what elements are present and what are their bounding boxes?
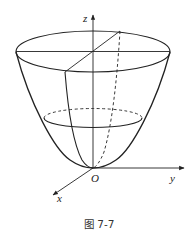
paraboloid-diagram: z y x O 图 7-7 [0,0,190,242]
z-axis-label: z [82,12,88,24]
front-generatrix [65,72,93,168]
x-axis [53,168,93,195]
origin-label: O [91,172,99,184]
figure-caption: 图 7-7 [84,218,115,230]
y-axis-label: y [169,172,175,184]
x-axis-label: x [56,192,62,204]
